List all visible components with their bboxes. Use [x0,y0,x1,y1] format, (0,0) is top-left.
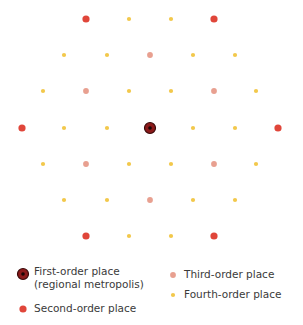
fourth-order-place [105,126,109,130]
fourth-order-place [169,162,173,166]
fourth-order-place [105,198,109,202]
fourth-order-place [127,17,131,21]
third-order-place [211,161,217,167]
legend-first-order-label: First-order place (regional metropolis) [34,265,144,291]
fourth-order-place [169,17,173,21]
third-order-place [147,197,153,203]
first-order-place [145,123,156,134]
legend-fourth-order-label: Fourth-order place [184,288,281,301]
fourth-order-place [127,89,131,93]
second-order-place [274,124,281,131]
fourth-order-place [127,234,131,238]
legend-first-order-icon [18,269,29,280]
legend-second-order-label: Second-order place [34,302,136,315]
fourth-order-place [254,162,258,166]
fourth-order-place [191,126,195,130]
legend-fourth-order-icon [171,293,175,297]
fourth-order-place [169,89,173,93]
third-order-place [83,161,89,167]
fourth-order-place [127,162,131,166]
fourth-order-place [233,126,237,130]
third-order-place [83,88,89,94]
legend-third-order-label: Third-order place [184,268,274,281]
second-order-place [82,232,89,239]
second-order-place [18,124,25,131]
second-order-place [210,15,217,22]
fourth-order-place [233,53,237,57]
places-layer [18,15,281,239]
third-order-place [147,52,153,58]
legend-third-order-icon [170,272,176,278]
fourth-order-place [62,53,66,57]
second-order-place [210,232,217,239]
legend-first-order-line1: First-order place [34,265,144,278]
fourth-order-place [191,198,195,202]
legend-first-order-line2: (regional metropolis) [34,278,144,291]
fourth-order-place [105,53,109,57]
fourth-order-place [62,198,66,202]
fourth-order-place [169,234,173,238]
second-order-place [82,15,89,22]
fourth-order-place [62,126,66,130]
third-order-place [211,88,217,94]
fourth-order-place [41,162,45,166]
fourth-order-place [254,89,258,93]
legend-second-order-icon [19,305,26,312]
fourth-order-place [191,53,195,57]
fourth-order-place [233,198,237,202]
fourth-order-place [41,89,45,93]
